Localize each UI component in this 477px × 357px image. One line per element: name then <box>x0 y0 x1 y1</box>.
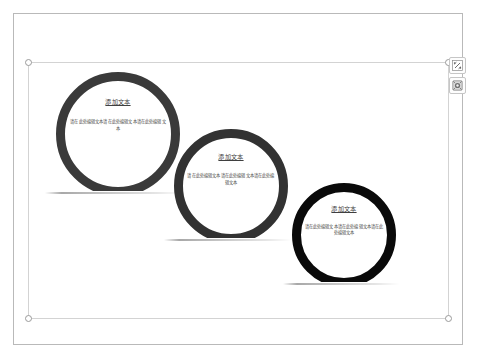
ring-shape <box>174 129 288 243</box>
smartart-canvas[interactable]: 添加文本请在此处编辑文本请在此处编辑文本请在此处编辑文本添加文本请在此处编辑文本… <box>29 63 448 318</box>
layout-options-icon <box>452 60 463 71</box>
slide-editor-root: 添加文本请在此处编辑文本请在此处编辑文本请在此处编辑文本添加文本请在此处编辑文本… <box>0 0 477 357</box>
smartart-node-1[interactable]: 添加文本请在此处编辑文本请在此处编辑文本请在此处编辑文本 <box>56 72 180 196</box>
ring-shape <box>292 183 396 287</box>
floating-button-group <box>449 57 468 94</box>
layout-options-button[interactable] <box>449 57 466 74</box>
design-ideas-button[interactable] <box>449 77 466 94</box>
smartart-selection-frame[interactable]: 添加文本请在此处编辑文本请在此处编辑文本请在此处编辑文本添加文本请在此处编辑文本… <box>28 62 449 319</box>
slide-page[interactable]: 添加文本请在此处编辑文本请在此处编辑文本请在此处编辑文本添加文本请在此处编辑文本… <box>13 13 463 345</box>
design-ideas-icon <box>452 80 463 91</box>
handle-bottom-right[interactable] <box>445 315 452 322</box>
handle-top-left[interactable] <box>25 59 32 66</box>
handle-bottom-left[interactable] <box>25 315 32 322</box>
smartart-node-3[interactable]: 添加文本请在此处编辑文本请在此处编辑文本请在此处编辑文本 <box>292 183 396 287</box>
smartart-node-2[interactable]: 添加文本请在此处编辑文本请在此处编辑文本请在此处编辑文本 <box>174 129 288 243</box>
ring-shape <box>56 72 180 196</box>
